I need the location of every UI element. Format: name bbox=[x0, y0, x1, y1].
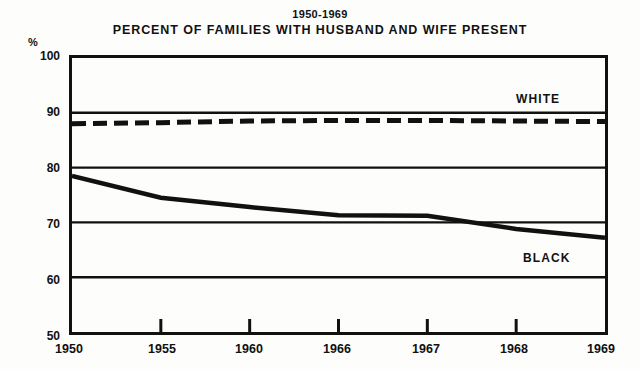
series-label-white: WHITE bbox=[516, 92, 560, 106]
y-tick-label-90: 90 bbox=[20, 105, 60, 119]
x-tick-label-1966: 1966 bbox=[307, 342, 367, 356]
chart-title: PERCENT OF FAMILIES WITH HUSBAND AND WIF… bbox=[0, 23, 640, 39]
y-axis-unit-label: % bbox=[28, 36, 38, 48]
y-tick-label-50: 50 bbox=[20, 329, 60, 343]
y-tick-label-100: 100 bbox=[20, 49, 60, 63]
y-tick-label-80: 80 bbox=[20, 161, 60, 175]
x-tick-label-1960: 1960 bbox=[219, 342, 279, 356]
chart-subtitle-years: 1950-1969 bbox=[0, 8, 640, 22]
x-tick-label-1967: 1967 bbox=[396, 342, 456, 356]
series-label-black: BLACK bbox=[523, 251, 571, 265]
x-tick-label-1968: 1968 bbox=[484, 342, 544, 356]
series-line-black bbox=[72, 176, 605, 238]
y-tick-label-70: 70 bbox=[20, 217, 60, 231]
x-tick-label-1950: 1950 bbox=[39, 342, 99, 356]
x-tick-label-1955: 1955 bbox=[132, 342, 192, 356]
series-line-white bbox=[72, 120, 605, 123]
x-tick-label-1969: 1969 bbox=[571, 342, 631, 356]
chart-figure: 1950-1969 PERCENT OF FAMILIES WITH HUSBA… bbox=[0, 0, 640, 369]
chart-title-block: 1950-1969 PERCENT OF FAMILIES WITH HUSBA… bbox=[0, 8, 640, 38]
x-tickmarks-group bbox=[161, 319, 516, 332]
y-tick-label-60: 60 bbox=[20, 273, 60, 287]
